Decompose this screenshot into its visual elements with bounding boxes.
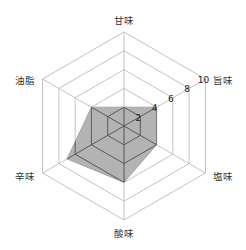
axis-label: 塩味: [213, 171, 233, 182]
axis-label: 油脂: [15, 75, 35, 86]
tick-label: 4: [152, 103, 158, 113]
tick-label: 8: [184, 84, 190, 94]
tick-label: 6: [168, 94, 174, 104]
tick-label: 2: [135, 113, 141, 123]
axis-label: 甘味: [114, 15, 134, 26]
axis-label: 旨味: [213, 75, 233, 86]
axis-label: 辛味: [15, 171, 35, 182]
axis-label: 酸味: [114, 228, 134, 239]
tick-label: 10: [198, 75, 210, 85]
radar-chart: 246810 甘味旨味塩味酸味辛味油脂: [0, 0, 246, 250]
